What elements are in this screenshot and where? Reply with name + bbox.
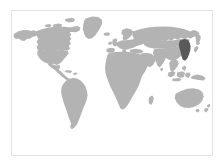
map-frame-border [11, 10, 213, 156]
world-map-canvas [12, 11, 212, 155]
world-map-figure [0, 0, 224, 166]
land-canada [36, 27, 75, 52]
